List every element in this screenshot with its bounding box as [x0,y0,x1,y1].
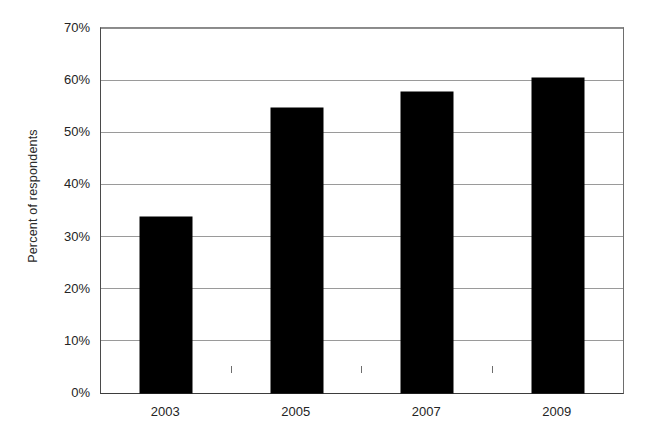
x-axis-tick [361,366,362,373]
bar-slot [493,28,624,393]
plot-area [100,27,624,394]
x-axis-tick-label-2009: 2009 [542,404,571,419]
y-axis-tick-label: 70% [64,20,90,35]
x-axis-tick-label-2007: 2007 [412,404,441,419]
bars-group [101,28,623,393]
y-axis-tick-label-group: 0%10%20%30%40%50%60%70% [44,0,96,440]
bar-2005[interactable] [271,108,323,393]
y-axis-tick-label: 60% [64,72,90,87]
x-axis-tick-label-group: 2003200520072009 [100,404,622,428]
y-axis-tick-label: 10% [64,332,90,347]
x-axis-tick-label-2003: 2003 [151,404,180,419]
y-axis-tick-label: 40% [64,176,90,191]
bar-chart-figure: Percent of respondents 0%10%20%30%40%50%… [0,0,652,440]
x-axis-tick [492,366,493,373]
bar-2003[interactable] [140,217,192,393]
bar-2007[interactable] [401,92,453,393]
x-axis-tick [231,366,232,373]
x-axis-tick-label-2005: 2005 [281,404,310,419]
y-axis-tick-label: 0% [71,385,90,400]
bar-slot [362,28,493,393]
y-axis-title: Percent of respondents [22,0,44,392]
y-axis-tick-label: 50% [64,124,90,139]
y-axis-tick-label: 20% [64,280,90,295]
bar-2009[interactable] [532,78,584,393]
bar-slot [232,28,363,393]
y-axis-tick-label: 30% [64,228,90,243]
bar-slot [101,28,232,393]
